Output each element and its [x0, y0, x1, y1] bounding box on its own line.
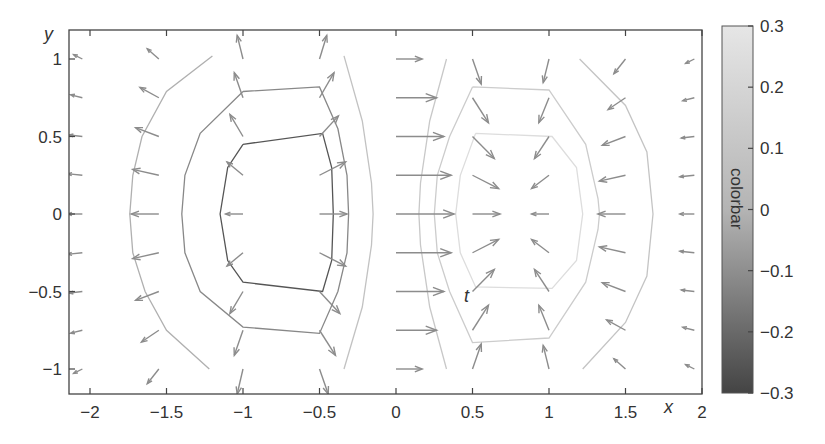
x-tick-label: −0.5	[303, 403, 337, 422]
contour-line	[434, 87, 599, 343]
x-tick-label: 0.5	[461, 403, 485, 422]
y-axis-label: y	[42, 24, 54, 44]
quiver-arrow	[140, 87, 159, 97]
colorbar-tick-label: 0.2	[760, 78, 784, 97]
quiver-arrow	[686, 365, 695, 369]
quiver-arrow	[226, 212, 243, 216]
quiver-arrow	[542, 345, 549, 369]
colorbar-tick-label: −0.3	[760, 384, 794, 403]
quiver-arrow	[68, 173, 83, 176]
quiver-arrow	[473, 269, 495, 291]
quiver-arrow	[599, 175, 625, 182]
quiver-arrow	[473, 211, 501, 217]
quiver-arrow	[396, 326, 437, 334]
x-tick-label: −2	[80, 403, 99, 422]
quiver-arrow	[602, 283, 625, 292]
quiver-arrow	[598, 211, 626, 217]
quiver-arrow	[473, 137, 495, 159]
plot-frame	[69, 30, 702, 394]
x-tick-label: 0	[391, 403, 400, 422]
quiver-arrow	[473, 239, 499, 252]
quiver-arrow	[320, 116, 339, 137]
quiver-arrow	[396, 171, 451, 179]
quiver-arrow	[473, 59, 482, 84]
y-tick-label: 0.5	[38, 128, 62, 147]
colorbar-tick-label: −0.1	[760, 262, 794, 281]
quiver-arrow	[147, 49, 159, 59]
quiver-arrow	[473, 175, 499, 188]
quiver-arrow	[320, 369, 329, 394]
quiver-arrow	[136, 128, 159, 137]
quiver-arrow	[396, 132, 444, 140]
colorbar-tick-label: 0.3	[760, 17, 784, 36]
quiver-arrow	[236, 35, 243, 59]
quiver-arrow	[686, 59, 695, 63]
colorbar-ticks: 0.30.20.10−0.1−0.2−0.3	[748, 17, 794, 403]
quiver-arrow	[599, 246, 625, 253]
quiver-arrow	[683, 98, 695, 101]
quiver-arrow	[681, 289, 694, 292]
y-tick-label: 0	[53, 205, 62, 224]
quiver-arrow	[320, 253, 346, 266]
quiver-arrow	[539, 98, 549, 123]
quiver-arrow	[133, 168, 159, 175]
quiver-arrow	[532, 175, 549, 188]
quiver-arrow	[683, 327, 695, 330]
quiver-arrow	[680, 250, 695, 253]
quiver-arrow	[320, 330, 336, 355]
quiver-arrow	[131, 211, 159, 217]
quiver-arrow	[539, 305, 549, 330]
quiver-arrow	[74, 55, 83, 59]
quiver-arrow	[396, 287, 444, 295]
quiver-arrow	[396, 249, 451, 257]
quiver-arrow	[133, 253, 159, 260]
quiver-arrow	[396, 210, 454, 218]
y-axis: 10.50−0.5−1	[28, 50, 75, 379]
quiver-arrow	[680, 175, 695, 178]
quiver-arrow	[71, 330, 83, 333]
quiver-arrow	[680, 212, 695, 215]
quiver-arrow	[614, 359, 626, 369]
x-tick-label: 1	[544, 403, 553, 422]
quiver-arrow	[320, 73, 335, 98]
quiver-arrow	[74, 369, 83, 373]
quiver-arrow	[236, 369, 243, 394]
quiver-arrow	[136, 292, 159, 301]
contour-lines	[130, 56, 653, 369]
quiver-arrow	[71, 94, 83, 97]
x-tick-label: 2	[697, 403, 706, 422]
quiver-arrow	[473, 98, 489, 123]
colorbar-tick-label: 0	[760, 201, 769, 220]
y-tick-label: 1	[53, 50, 62, 69]
quiver-arrow	[542, 59, 549, 83]
quiver-arrow	[396, 94, 437, 102]
colorbar: 0.30.20.10−0.1−0.2−0.3 colorbar	[722, 17, 794, 403]
colorbar-tick-label: 0.1	[760, 139, 784, 158]
quiver-arrow	[614, 59, 626, 74]
quiver-arrow	[396, 56, 422, 62]
quiver-arrow	[473, 344, 482, 369]
quiver-arrow	[534, 137, 549, 159]
quiver-arrow	[227, 162, 243, 175]
contour-line	[220, 133, 333, 291]
quiver-arrow	[234, 330, 243, 355]
plot-canvas: −2−1.5−1−0.500.511.52 10.50−0.5−1 y x t …	[0, 0, 825, 444]
quiver-arrow	[681, 136, 694, 139]
quiver-arrow	[230, 292, 243, 314]
x-axis: −2−1.5−1−0.500.511.52	[80, 30, 706, 422]
quiver-arrow	[320, 162, 346, 175]
quiver-arrows	[68, 35, 695, 394]
quiver-arrow	[230, 114, 243, 136]
quiver-arrow	[532, 212, 549, 216]
quiver-arrow	[320, 35, 328, 59]
quiver-arrow	[602, 137, 625, 146]
annotation-t: t	[464, 286, 470, 306]
x-axis-label: x	[663, 397, 674, 417]
quiver-contour-figure: −2−1.5−1−0.500.511.52 10.50−0.5−1 y x t …	[0, 0, 825, 444]
y-tick-label: −1	[43, 360, 62, 379]
colorbar-tick-label: −0.2	[760, 323, 794, 342]
quiver-arrow	[234, 73, 243, 98]
quiver-arrow	[473, 305, 489, 330]
contour-line	[130, 56, 213, 369]
quiver-arrow	[227, 253, 243, 266]
